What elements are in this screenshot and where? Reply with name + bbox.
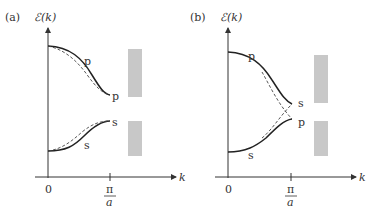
panel-b-dashed-crossing-down [262, 72, 292, 119]
panel-a-upper-band-curve [48, 46, 110, 95]
panel-a-label: (a) [5, 11, 20, 24]
panel-b-lower-band-curve [228, 119, 292, 152]
panel-b-lower-band-end-label: p [298, 116, 305, 129]
panel-a-lower-band-curve [48, 121, 110, 151]
panel-b-pi-label: π [287, 183, 294, 196]
panel-b-upper-band-bar [314, 55, 328, 103]
panel-b-lower-band-bar [314, 121, 328, 156]
panel-b-a-label: a [287, 196, 294, 209]
band-structure-figure: (a) ℰ(k) k 0 π a p p s s (b) ℰ(k) k 0 π [0, 0, 371, 214]
panel-b-lower-band-mid-label: s [248, 149, 254, 162]
panel-b-upper-band-curve [228, 52, 292, 104]
panel-a-lower-band-dashed [48, 121, 110, 151]
panel-a-upper-band-end-label: p [112, 90, 119, 103]
panel-a-lower-band-end-label: s [112, 116, 118, 129]
panel-a-lower-band-bar [128, 121, 142, 156]
panel-a-lower-band-mid-label: s [84, 139, 90, 152]
panel-a-upper-band-mid-label: p [84, 55, 91, 68]
panel-b-origin-label: 0 [225, 183, 232, 196]
panel-a-a-label: a [106, 196, 113, 209]
panel-a: (a) ℰ(k) k 0 π a p p s s [5, 11, 186, 209]
panel-b: (b) ℰ(k) k 0 π a p s p s [190, 11, 366, 209]
panel-a-origin-label: 0 [45, 183, 52, 196]
panel-b-label: (b) [190, 11, 206, 24]
panel-b-upper-band-mid-label: p [248, 50, 255, 63]
panel-a-upper-band-bar [128, 49, 142, 97]
panel-b-y-axis-label: ℰ(k) [220, 11, 242, 24]
panel-a-x-axis-label: k [179, 171, 186, 184]
panel-a-y-axis-label: ℰ(k) [34, 11, 56, 24]
panel-b-x-axis-label: k [359, 171, 366, 184]
panel-b-upper-band-end-label: s [298, 97, 304, 110]
panel-a-pi-label: π [106, 183, 113, 196]
